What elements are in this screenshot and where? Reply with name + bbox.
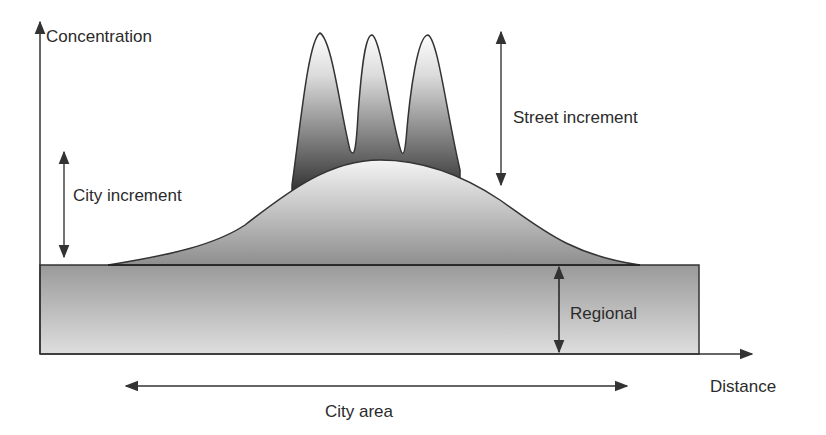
city-area-label: City area — [325, 402, 394, 421]
regional-label: Regional — [570, 304, 637, 323]
city-increment-hump — [108, 160, 640, 265]
street-increment-label: Street increment — [513, 108, 638, 127]
city-increment-label: City increment — [73, 186, 182, 205]
x-axis-label: Distance — [710, 377, 776, 396]
concentration-diagram: Concentration Street increment City incr… — [0, 0, 826, 435]
y-axis-label: Concentration — [46, 27, 152, 46]
